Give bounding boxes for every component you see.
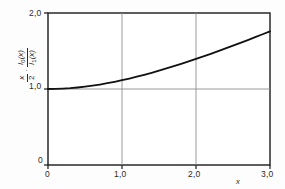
x-axis-label: x xyxy=(236,177,240,186)
ytick-label-0: 0 xyxy=(38,156,43,165)
xtick-label-3: 3,0 xyxy=(261,170,273,179)
y-axis-label-fraction-x-over-2: x 2 xyxy=(18,74,37,82)
chart-figure: 2,0 1,0 0 0 1,0 2,0 3,0 x x 2 · I0(x) I1… xyxy=(0,0,285,189)
y-axis-label: x 2 · I0(x) I1(x) xyxy=(12,29,42,101)
y-axis-label-fraction-i0-over-i1: I0(x) I1(x) xyxy=(17,48,37,67)
y-axis-label-denominator-2: 2 xyxy=(28,74,37,82)
y-axis-label-numerator-i0: I0(x) xyxy=(17,48,27,67)
xtick-label-2: 2,0 xyxy=(188,170,200,179)
ytick-label-2: 2,0 xyxy=(29,9,41,18)
i0-subscript: 0 xyxy=(20,59,26,62)
i1-subscript: 1 xyxy=(31,59,37,62)
i1-argument: (x) xyxy=(27,50,36,59)
y-axis-label-denominator-i1: I1(x) xyxy=(28,48,37,67)
i0-argument: (x) xyxy=(16,50,25,59)
xtick-label-1: 1,0 xyxy=(114,170,126,179)
y-axis-label-multiplication-dot: · xyxy=(22,69,31,72)
xtick-label-0: 0 xyxy=(45,170,50,179)
